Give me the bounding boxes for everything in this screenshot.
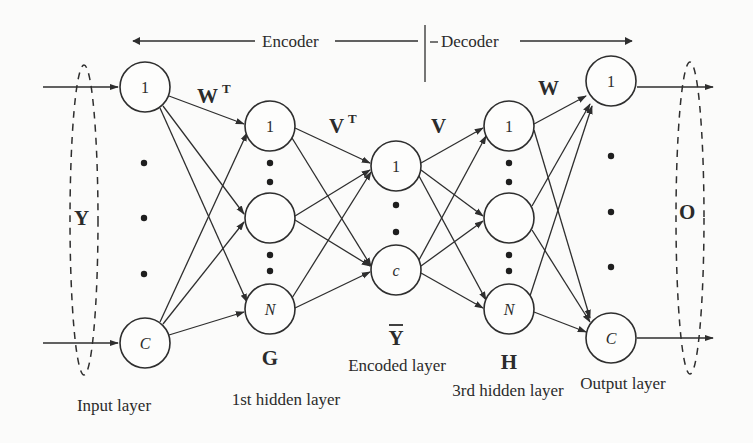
- hidden1-dot: [267, 160, 273, 166]
- hidden3-dot: [506, 179, 512, 185]
- hidden1-dot: [267, 252, 273, 258]
- hidden3-node-middle: [484, 193, 534, 243]
- input-group-symbol: Y: [74, 206, 89, 230]
- hidden3-node-1-label: 1: [505, 118, 513, 135]
- weight-w-transpose-sup: T: [222, 81, 231, 96]
- output-layer: 1 C: [586, 56, 636, 363]
- input-layer: 1 C: [120, 62, 170, 368]
- encoder-label: Encoder: [262, 32, 319, 51]
- hidden3-node-n-label: N: [503, 301, 516, 318]
- hidden-layer-3: 1 N: [484, 101, 534, 334]
- autoencoder-diagram: Encoder Decoder: [0, 0, 753, 443]
- edges-input-hidden1: [160, 96, 247, 335]
- weight-w-base: W: [538, 76, 559, 100]
- hidden3-dot: [506, 160, 512, 166]
- hidden3-layer-label: 3rd hidden layer: [452, 381, 564, 400]
- hidden1-symbol: G: [262, 346, 278, 370]
- input-dot: [141, 271, 147, 277]
- encoded-dot: [393, 202, 399, 208]
- output-node-c-label: C: [606, 330, 617, 347]
- weight-v-transpose-sup: T: [348, 111, 357, 126]
- weight-w: W: [538, 76, 559, 100]
- hidden1-layer-label: 1st hidden layer: [232, 390, 341, 409]
- hidden1-dot: [267, 179, 273, 185]
- weight-w-transpose: W T: [197, 81, 231, 108]
- weight-v-transpose: V T: [329, 111, 357, 138]
- edges-hidden1-encoded: [292, 128, 371, 308]
- hidden1-node-middle: [245, 193, 295, 243]
- encoded-node-1-label: 1: [392, 158, 400, 175]
- encoded-symbol: Y: [388, 325, 403, 350]
- hidden1-dot: [267, 268, 273, 274]
- edges-encoded-hidden3: [419, 128, 486, 308]
- hidden3-symbol: H: [501, 350, 517, 374]
- hidden1-node-n-label: N: [264, 301, 277, 318]
- output-dot: [608, 264, 614, 270]
- encoded-layer-label: Encoded layer: [348, 356, 446, 375]
- weight-w-transpose-base: W: [197, 84, 218, 108]
- weight-v-transpose-base: V: [329, 114, 344, 138]
- output-layer-label: Output layer: [580, 374, 666, 393]
- encoder-decoder-header: Encoder Decoder: [133, 25, 632, 82]
- edges-hidden3-output: [530, 96, 592, 332]
- input-dot: [141, 160, 147, 166]
- hidden-layer-1: 1 N: [245, 101, 295, 334]
- output-dot: [608, 153, 614, 159]
- input-layer-label: Input layer: [77, 396, 151, 415]
- weight-v-base: V: [431, 114, 446, 138]
- output-node-1-label: 1: [607, 73, 615, 90]
- hidden1-node-1-label: 1: [266, 118, 274, 135]
- output-dot: [608, 209, 614, 215]
- encoded-symbol-base: Y: [388, 326, 403, 350]
- input-node-c-label: C: [140, 335, 151, 352]
- input-dot: [141, 215, 147, 221]
- encoded-dot: [393, 229, 399, 235]
- encoded-layer: 1 c: [371, 141, 421, 295]
- input-node-1-label: 1: [141, 79, 149, 96]
- weight-v: V: [431, 114, 446, 138]
- hidden3-dot: [506, 268, 512, 274]
- hidden3-dot: [506, 252, 512, 258]
- output-group-symbol: O: [679, 200, 695, 224]
- encoded-node-c-label: c: [392, 262, 399, 279]
- decoder-label: Decoder: [441, 32, 499, 51]
